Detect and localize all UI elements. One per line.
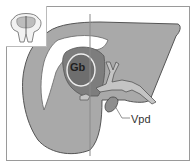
orientation-inset <box>6 6 47 47</box>
vpd-label: Vpd <box>131 114 151 125</box>
gallbladder-label: Gb <box>70 62 85 73</box>
abdomen-thumbnail-icon <box>6 6 46 46</box>
vpd-leader-line <box>115 106 130 118</box>
